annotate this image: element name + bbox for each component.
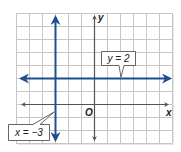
callout-y-equals-2-text: y = 2 [107, 53, 130, 64]
y-axis-label: y [97, 12, 104, 23]
coordinate-plane: y x O y = 2 x = −3 [0, 0, 181, 152]
origin-label: O [85, 107, 93, 118]
callout-x-equals-neg3-text: x = −3 [14, 127, 43, 138]
x-axis-label: x [165, 107, 172, 118]
